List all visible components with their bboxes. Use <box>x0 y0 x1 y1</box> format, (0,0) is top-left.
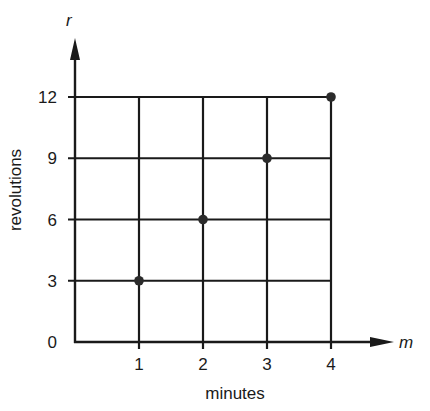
x-tick-label: 3 <box>262 355 271 374</box>
x-tick-label: 2 <box>198 355 207 374</box>
grid-lines <box>68 97 331 349</box>
y-tick-label: 3 <box>48 272 57 291</box>
x-variable-label: m <box>399 333 413 352</box>
axes <box>70 38 394 347</box>
data-point <box>262 153 272 163</box>
x-axis-arrow-icon <box>370 337 394 347</box>
data-points <box>134 92 336 285</box>
y-variable-label: r <box>66 11 73 30</box>
x-axis-title: minutes <box>205 384 265 403</box>
y-tick-label: 9 <box>48 149 57 168</box>
y-axis-arrow-icon <box>70 38 80 60</box>
data-point <box>134 276 144 286</box>
x-tick-label: 1 <box>134 355 143 374</box>
tick-labels: 0369121234 <box>38 88 336 374</box>
data-point <box>198 215 208 225</box>
data-point <box>326 92 336 102</box>
y-axis-title: revolutions <box>6 149 25 231</box>
y-tick-label: 0 <box>48 333 57 352</box>
y-tick-label: 12 <box>38 88 57 107</box>
y-tick-label: 6 <box>48 211 57 230</box>
scatter-chart: 0369121234 r m minutes revolutions <box>0 0 430 411</box>
x-tick-label: 4 <box>326 355 335 374</box>
